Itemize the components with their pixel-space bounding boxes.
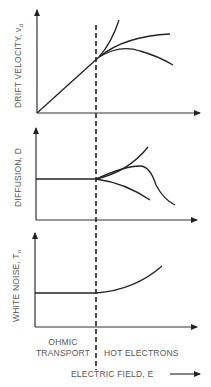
ohmic-linear-curve xyxy=(37,57,99,113)
diffusion-label: DIFFUSION, D xyxy=(13,148,23,207)
drift-middle-curve xyxy=(99,34,170,57)
drift-velocity-label: DRIFT VELOCITY, vd xyxy=(13,24,24,108)
electric-field-label: ELECTRIC FIELD, E xyxy=(71,369,153,379)
panel-diffusion: DIFFUSION, D xyxy=(13,128,197,220)
diffusion-upper-curve xyxy=(96,147,148,179)
transport-label: TRANSPORT xyxy=(36,348,90,358)
white-noise-label: WHITE NOISE, Tn xyxy=(11,250,22,322)
panel-drift-velocity: DRIFT VELOCITY, vd xyxy=(13,10,200,113)
diffusion-middle-curve xyxy=(96,166,175,205)
diffusion-lower-curve xyxy=(96,179,150,200)
drift-lower-curve xyxy=(99,49,173,65)
noise-rising-curve xyxy=(96,266,162,293)
hot-electrons-label: HOT ELECTRONS xyxy=(104,348,179,358)
ohmic-label: OHMIC xyxy=(48,337,77,347)
panel-white-noise: WHITE NOISE, Tn xyxy=(11,233,197,327)
hot-electron-diagram: DRIFT VELOCITY, vd DIFFUSION, D WHITE NO… xyxy=(0,0,211,387)
